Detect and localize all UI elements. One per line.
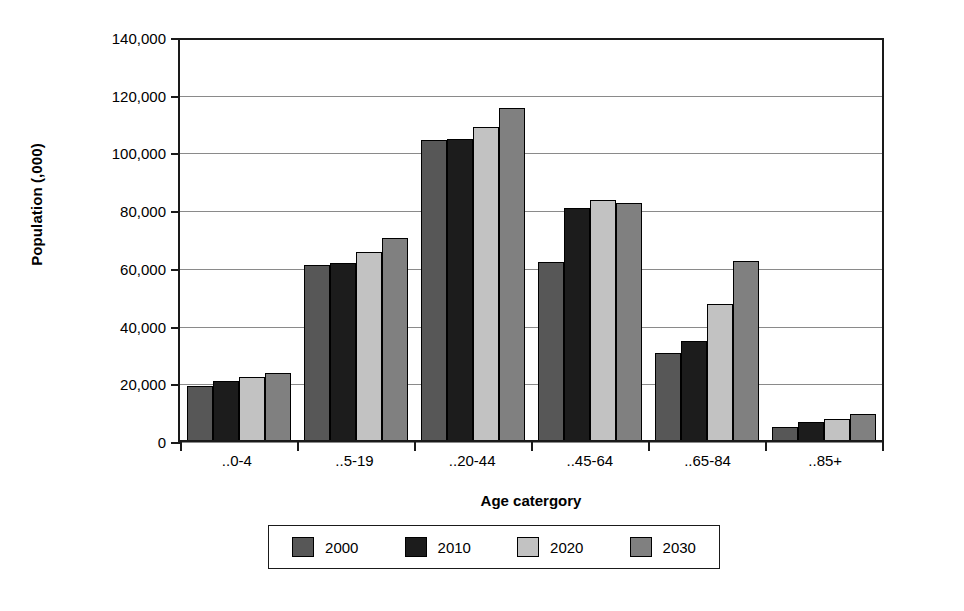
legend-item-2000[interactable]: 2000 [292, 537, 358, 557]
bar-2030-..20-44[interactable] [499, 108, 525, 442]
y-axis-tick [171, 96, 180, 98]
y-axis-tick-label: 60,000 [120, 260, 166, 277]
x-axis-line [180, 440, 882, 442]
y-axis-tick-label: 80,000 [120, 203, 166, 220]
x-axis-tick [531, 442, 533, 451]
legend-label: 2000 [325, 539, 358, 556]
legend-swatch-2010 [405, 537, 427, 557]
bar-2020-..65-84[interactable] [707, 304, 733, 442]
bar-group [765, 38, 882, 442]
bar-2010-..20-44[interactable] [447, 139, 473, 442]
bar-2020-..85+[interactable] [824, 419, 850, 442]
bar-group [297, 38, 414, 442]
y-axis-tick [171, 153, 180, 155]
y-axis-tick [171, 38, 180, 40]
plot-area: 020,00040,00060,00080,000100,000120,0001… [178, 38, 884, 442]
y-axis-tick-label: 40,000 [120, 318, 166, 335]
x-axis-category-label: ..45-64 [531, 452, 649, 469]
bar-2030-..85+[interactable] [850, 414, 876, 442]
y-axis-tick [171, 211, 180, 213]
legend-label: 2010 [438, 539, 471, 556]
x-axis-category-label: ..85+ [766, 452, 884, 469]
bar-groups [180, 38, 882, 442]
bar-2020-..0-4[interactable] [239, 377, 265, 443]
y-axis-tick-label: 0 [158, 434, 166, 451]
x-axis-category-label: ..0-4 [178, 452, 296, 469]
x-axis-tick [882, 442, 884, 451]
bar-group [531, 38, 648, 442]
bar-group [414, 38, 531, 442]
bar-2020-..20-44[interactable] [473, 127, 499, 442]
bar-2030-..45-64[interactable] [616, 203, 642, 443]
legend: 2000201020202030 [268, 525, 720, 569]
bar-2030-..5-19[interactable] [382, 238, 408, 442]
x-axis-tick [297, 442, 299, 451]
legend-swatch-2020 [517, 537, 539, 557]
bar-2010-..5-19[interactable] [330, 263, 356, 442]
legend-label: 2030 [663, 539, 696, 556]
y-axis-tick [171, 327, 180, 329]
x-axis-category-label: ..20-44 [413, 452, 531, 469]
y-axis-tick-label: 120,000 [112, 87, 166, 104]
bar-2000-..0-4[interactable] [187, 386, 213, 442]
x-axis-tick [765, 442, 767, 451]
legend-item-2010[interactable]: 2010 [405, 537, 471, 557]
y-axis-tick-label: 100,000 [112, 145, 166, 162]
legend-swatch-2000 [292, 537, 314, 557]
x-axis-tick [648, 442, 650, 451]
bar-2000-..45-64[interactable] [538, 262, 564, 442]
bar-2000-..5-19[interactable] [304, 265, 330, 442]
y-axis-tick-label: 140,000 [112, 30, 166, 47]
x-axis-tick [414, 442, 416, 451]
y-axis-tick [171, 442, 180, 444]
y-axis-tick [171, 384, 180, 386]
bar-2020-..5-19[interactable] [356, 252, 382, 442]
legend-swatch-2030 [630, 537, 652, 557]
bar-2010-..65-84[interactable] [681, 341, 707, 442]
bar-2010-..0-4[interactable] [213, 381, 239, 442]
y-axis-tick [171, 269, 180, 271]
bar-2000-..20-44[interactable] [421, 140, 447, 442]
legend-item-2030[interactable]: 2030 [630, 537, 696, 557]
y-axis-tick-label: 20,000 [120, 376, 166, 393]
x-axis-tick-labels: ..0-4..5-19..20-44..45-64..65-84..85+ [178, 452, 884, 469]
x-axis-category-label: ..65-84 [649, 452, 767, 469]
x-axis-category-label: ..5-19 [296, 452, 414, 469]
bar-2030-..65-84[interactable] [733, 261, 759, 442]
x-axis-title: Age catergory [178, 492, 884, 509]
bar-group [648, 38, 765, 442]
bar-2020-..45-64[interactable] [590, 200, 616, 442]
bar-chart: Population (,000) 020,00040,00060,00080,… [0, 0, 964, 611]
y-axis-title: Population (,000) [28, 95, 45, 315]
x-axis-tick [180, 442, 182, 451]
bar-2030-..0-4[interactable] [265, 373, 291, 442]
legend-item-2020[interactable]: 2020 [517, 537, 583, 557]
bar-2010-..45-64[interactable] [564, 208, 590, 442]
bar-2000-..65-84[interactable] [655, 353, 681, 442]
bar-group [180, 38, 297, 442]
legend-label: 2020 [550, 539, 583, 556]
